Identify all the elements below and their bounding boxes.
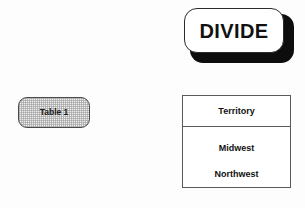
result-table-body: Midwest Northwest [183, 127, 290, 187]
source-node-table-1[interactable]: Table 1 [18, 97, 90, 128]
result-table[interactable]: Territory Midwest Northwest [182, 95, 291, 188]
result-table-cell: Northwest [214, 170, 258, 179]
divide-button-label: DIVIDE [199, 21, 268, 41]
result-table-header-label: Territory [218, 107, 254, 116]
table-row[interactable]: Midwest [183, 135, 290, 161]
source-node-face[interactable]: Table 1 [18, 97, 90, 128]
diagram-canvas: DIVIDE Table 1 Territory Midwest Northwe… [0, 0, 305, 208]
result-table-header: Territory [183, 96, 290, 127]
result-table-cell: Midwest [219, 144, 255, 153]
source-node-label: Table 1 [40, 108, 69, 117]
divide-operator-button[interactable]: DIVIDE [184, 8, 294, 63]
divide-button-face[interactable]: DIVIDE [184, 8, 284, 53]
table-row[interactable]: Northwest [183, 161, 290, 187]
